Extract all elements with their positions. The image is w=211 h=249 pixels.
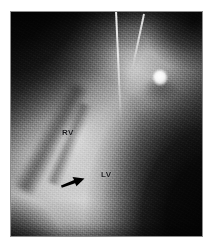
dark-corner-upper-right bbox=[11, 12, 202, 236]
collimation-band-top bbox=[11, 12, 202, 236]
dark-corner-lower-left bbox=[11, 12, 202, 236]
radiograph-image: RV LV bbox=[11, 12, 202, 236]
dark-corner-upper-left bbox=[11, 12, 202, 236]
ventricular-contrast-bloom bbox=[11, 12, 202, 236]
catheter-tip-icon bbox=[153, 70, 167, 85]
annotation-label-lv: LV bbox=[101, 171, 111, 179]
annotation-label-rv: RV bbox=[62, 129, 74, 137]
septal-defect-arrow-icon bbox=[59, 172, 87, 191]
interventricular-septum-inner bbox=[45, 101, 92, 187]
catheter-tip-shadow bbox=[145, 80, 179, 102]
figure-page: RV LV bbox=[0, 0, 211, 249]
right-ventricle-bloom bbox=[11, 12, 202, 236]
dark-corner-lower-right bbox=[11, 12, 202, 236]
catheter-branch bbox=[131, 14, 145, 69]
film-grain-overlay-fine bbox=[11, 12, 202, 236]
film-base-tone bbox=[11, 12, 202, 236]
film-grain-overlay bbox=[11, 12, 202, 236]
radiograph-figure-frame: RV LV bbox=[10, 11, 203, 237]
collimation-band-bottom bbox=[11, 12, 202, 236]
catheter-shaft bbox=[115, 12, 122, 122]
upper-thorax-bloom bbox=[11, 12, 202, 236]
